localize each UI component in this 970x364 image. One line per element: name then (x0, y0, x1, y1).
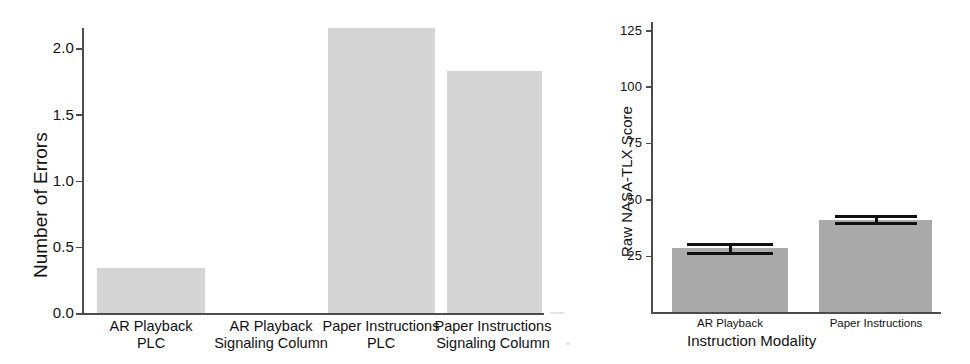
figure-two-bar-charts: Number of Errors 0.0 0.5 1.0 1.5 2.0 AR … (0, 0, 970, 364)
x-axis-title-tlx: Instruction Modality (687, 332, 816, 349)
y-tick-label-tlx-50: 50 (612, 192, 642, 207)
y-tick-label-tlx-25: 25 (612, 248, 642, 263)
y-tick-label-errors-1: 0.5 (34, 238, 74, 255)
bar-errors-2[interactable] (328, 28, 435, 313)
error-bar-cap-lower-0 (687, 252, 773, 255)
y-tick-errors-3 (76, 114, 83, 116)
y-axis-line-errors (82, 28, 84, 314)
x-axis-line-errors (82, 313, 544, 315)
error-bar-tlx-1 (835, 215, 917, 225)
scan-artifact-dash (550, 312, 564, 314)
chart-panel-tlx: Raw NASA-TLX Score 25 50 75 100 125 (560, 0, 970, 364)
x-cat-label-errors-3: Paper Instructions Signaling Column (423, 318, 563, 352)
y-tick-tlx-100 (646, 86, 652, 88)
bar-errors-0[interactable] (97, 268, 205, 313)
y-tick-label-errors-3: 1.5 (34, 106, 74, 123)
y-tick-tlx-25 (646, 256, 652, 258)
x-cat-label-tlx-0: AR Playback (670, 316, 790, 330)
bar-tlx-1[interactable] (819, 220, 932, 313)
y-tick-label-errors-0: 0.0 (34, 304, 74, 321)
x-cat-label-errors-3-line2: Signaling Column (423, 335, 563, 352)
x-axis-line-tlx (651, 312, 941, 314)
x-cat-label-errors-0-line1: AR Playback (109, 318, 192, 334)
x-cat-label-tlx-1: Paper Instructions (812, 316, 940, 330)
y-tick-tlx-50 (646, 199, 652, 201)
x-cat-label-errors-1-line1: AR Playback (229, 318, 312, 334)
y-tick-label-tlx-125: 125 (604, 23, 642, 38)
y-tick-errors-2 (76, 181, 83, 183)
error-bar-tlx-0 (687, 243, 773, 255)
chart-panel-errors: Number of Errors 0.0 0.5 1.0 1.5 2.0 AR … (0, 0, 560, 364)
y-axis-title-tlx: Raw NASA-TLX Score (618, 106, 635, 257)
x-cat-label-errors-3-line1: Paper Instructions (435, 318, 552, 334)
y-tick-label-tlx-100: 100 (604, 79, 642, 94)
error-bar-cap-lower-1 (835, 222, 917, 225)
y-tick-tlx-125 (646, 30, 652, 32)
scan-artifact-dot (566, 342, 570, 345)
y-tick-tlx-75 (646, 143, 652, 145)
y-tick-label-errors-2: 1.0 (34, 172, 74, 189)
y-tick-errors-1 (76, 247, 83, 249)
bar-tlx-0[interactable] (672, 248, 788, 312)
bar-errors-3[interactable] (447, 71, 542, 314)
x-cat-label-errors-2-line1: Paper Instructions (323, 318, 440, 334)
y-tick-label-tlx-75: 75 (612, 135, 642, 150)
y-tick-label-errors-4: 2.0 (34, 39, 74, 56)
y-axis-line-tlx (651, 22, 653, 313)
y-tick-errors-4 (76, 48, 83, 50)
y-axis-title-errors: Number of Errors (30, 132, 52, 278)
y-tick-errors-0 (76, 313, 83, 315)
